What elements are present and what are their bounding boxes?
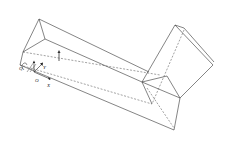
right-box-top-back-edge xyxy=(184,28,214,62)
long-box-top-left-edge xyxy=(39,19,45,39)
long-box-bottom-front-edge xyxy=(20,65,174,130)
hidden-edge-1 xyxy=(23,52,160,75)
long-box-right-vertical-edge xyxy=(174,98,180,130)
label-y: Y xyxy=(43,65,47,70)
force-arrow xyxy=(58,50,61,61)
long-box-end-left-edge xyxy=(20,52,23,65)
label-origin: O xyxy=(35,78,39,83)
l-shaped-box-diagram: Q Y O X xyxy=(0,0,233,143)
label-x: X xyxy=(46,83,51,88)
hidden-edges xyxy=(20,30,184,128)
right-box-joint-edge xyxy=(142,76,167,82)
hidden-edge-4 xyxy=(20,65,152,104)
right-box-joint-edge-2 xyxy=(167,76,180,98)
right-box xyxy=(142,25,214,104)
right-box-front-face xyxy=(142,25,213,98)
label-q: Q xyxy=(19,66,23,71)
